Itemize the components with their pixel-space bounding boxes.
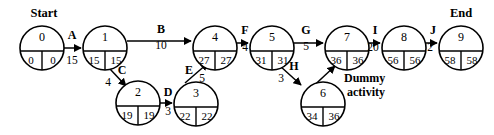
edge-label-I: I (373, 23, 378, 37)
edge-label-E: E (185, 63, 193, 77)
node-6-late: 36 (329, 110, 341, 122)
node-2-id: 2 (135, 85, 141, 99)
edge-duration-C: 4 (105, 76, 111, 88)
edge-label-F: F (241, 23, 248, 37)
node-3[interactable]: 3 22 22 (174, 82, 218, 126)
node-5-early: 31 (256, 54, 267, 66)
nodes-layer: 0 0 0 1 15 15 2 19 19 (20, 26, 483, 126)
node-2-late: 19 (144, 109, 156, 121)
node-5-late: 31 (278, 54, 289, 66)
node-1-early: 15 (89, 54, 101, 66)
node-0-id: 0 (39, 30, 45, 44)
edge-label-B: B (157, 22, 165, 36)
node-4-late: 27 (221, 54, 233, 66)
node-4-early: 27 (199, 54, 211, 66)
edge-duration-J: 2 (427, 41, 433, 53)
node-9[interactable]: 9 58 58 (439, 26, 483, 70)
dummy-activity-label-line2: activity (347, 85, 385, 99)
node-8-late: 56 (410, 54, 422, 66)
dummy-activity-label-line1: Dummy (344, 71, 385, 85)
edge-duration-A: 15 (66, 54, 78, 66)
network-diagram: 0 0 0 1 15 15 2 19 19 (0, 0, 494, 135)
edge-label-A: A (68, 28, 77, 42)
edge-duration-H: 3 (278, 72, 284, 84)
node-8[interactable]: 8 56 56 (382, 26, 426, 70)
start-label: Start (30, 6, 58, 20)
edge-label-G: G (301, 23, 310, 37)
node-7-late: 36 (353, 54, 365, 66)
node-6-id: 6 (320, 86, 326, 100)
node-2[interactable]: 2 19 19 (116, 81, 160, 125)
node-3-early: 22 (180, 110, 191, 122)
end-label: End (450, 6, 472, 20)
node-7[interactable]: 7 36 36 (325, 26, 369, 70)
node-4[interactable]: 4 27 27 (193, 26, 237, 70)
edge-duration-B: 10 (155, 39, 167, 51)
node-7-id: 7 (344, 30, 350, 44)
node-3-late: 22 (202, 110, 213, 122)
edge-duration-D: 3 (165, 105, 171, 117)
node-9-early: 58 (445, 54, 457, 66)
edge-label-C: C (118, 63, 127, 77)
network-diagram-canvas: 0 0 0 1 15 15 2 19 19 (0, 0, 494, 135)
node-5-id: 5 (269, 30, 275, 44)
edge-duration-G: 5 (303, 40, 309, 52)
node-1-id: 1 (102, 30, 108, 44)
edge-duration-E: 5 (199, 72, 205, 84)
node-7-early: 36 (331, 54, 343, 66)
node-2-early: 19 (122, 109, 134, 121)
node-6[interactable]: 6 34 36 (301, 82, 345, 126)
node-8-early: 56 (388, 54, 400, 66)
node-8-id: 8 (401, 30, 407, 44)
node-4-id: 4 (212, 30, 218, 44)
edge-duration-I: 20 (367, 41, 379, 53)
edge-duration-F: 4 (242, 41, 248, 53)
edge-label-J: J (430, 23, 436, 37)
edge-label-D: D (164, 85, 173, 99)
node-6-early: 34 (307, 110, 319, 122)
node-0-late: 0 (50, 54, 56, 66)
node-9-id: 9 (458, 30, 464, 44)
node-0-early: 0 (28, 54, 34, 66)
node-5[interactable]: 5 31 31 (250, 26, 294, 70)
node-9-late: 58 (467, 54, 479, 66)
node-0[interactable]: 0 0 0 (20, 26, 64, 70)
edge-label-H: H (289, 59, 299, 73)
node-3-id: 3 (193, 86, 199, 100)
